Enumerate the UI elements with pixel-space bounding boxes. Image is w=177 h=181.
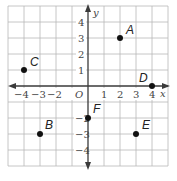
y-tick-label: −3 [75,129,90,140]
y-axis-label: y [92,7,99,18]
svg-text:B: B [45,118,53,132]
origin-label: O [75,89,83,100]
y-tick-label: 2 [78,49,84,60]
y-tick-label: 1 [78,65,84,76]
svg-text:E: E [142,118,151,132]
y-tick-label: 3 [78,33,84,44]
svg-text:F: F [93,102,101,116]
svg-text:D: D [139,71,148,85]
svg-text:C: C [30,55,39,69]
y-axis-up-arrow-icon [85,4,91,12]
x-tick-label: 3 [133,89,139,100]
y-tick-label: −4 [75,145,90,156]
coordinate-plane: x y O −4 −3 −2 1 2 3 4 4 3 2 1 −2 −3 −4 … [0,0,177,181]
x-tick-label: 1 [101,89,107,100]
x-tick-label: 4 [149,89,155,100]
x-tick-label: −2 [47,89,62,100]
svg-text:A: A [125,23,134,37]
x-axis-label: x [160,88,166,99]
x-tick-label: 2 [117,89,123,100]
x-tick-label: −4 [14,89,29,100]
x-tick-label: −3 [31,89,46,100]
y-tick-label: 4 [78,17,84,28]
